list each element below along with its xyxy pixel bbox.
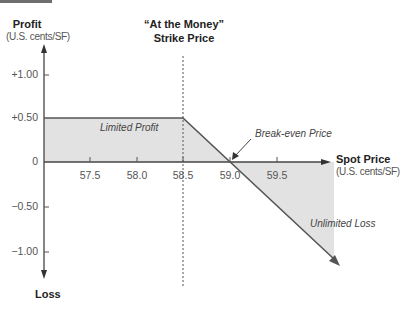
- y-tick-label: +1.00: [0, 68, 38, 80]
- unlimited-loss-label: Unlimited Loss: [310, 218, 376, 229]
- x-axis-unit: (U.S. cents/SF): [336, 166, 400, 177]
- strike-label-line1: “At the Money”: [140, 18, 228, 30]
- y-tick-label: 0: [0, 155, 38, 167]
- y-axis-down-arrow: [41, 270, 47, 279]
- y-axis-up-arrow: [41, 44, 47, 53]
- y-tick-label: −1.00: [0, 245, 38, 257]
- x-tick-label: 57.5: [75, 169, 105, 181]
- y-tick-label: +0.50: [0, 111, 38, 123]
- break-even-pointer: [235, 139, 251, 156]
- strike-label-line2: Strike Price: [140, 32, 228, 44]
- x-tick-label: 58.0: [122, 169, 152, 181]
- x-axis-title: Spot Price: [336, 153, 390, 165]
- x-tick-label: 58.5: [168, 169, 198, 181]
- limited-profit-label: Limited Profit: [100, 122, 158, 133]
- y-axis-unit: (U.S. cents/SF): [6, 31, 70, 42]
- x-tick-label: 59.5: [262, 169, 292, 181]
- y-tick-label: −0.50: [0, 200, 38, 212]
- y-axis-bottom-label: Loss: [35, 288, 61, 300]
- break-even-label: Break-even Price: [255, 128, 332, 139]
- y-axis-title: Profit: [4, 18, 50, 30]
- x-tick-label: 59.0: [215, 169, 245, 181]
